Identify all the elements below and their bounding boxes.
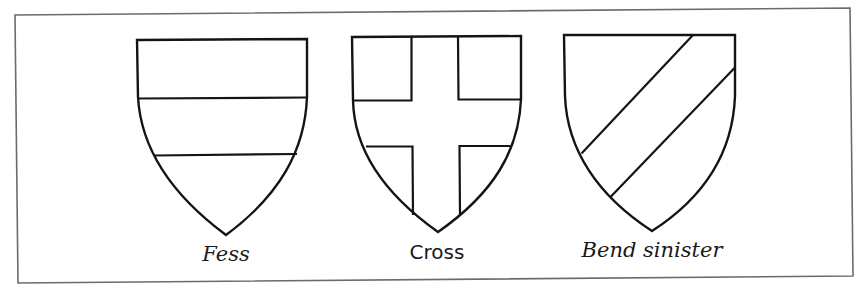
label-bend-sinister: Bend sinister: [582, 238, 723, 262]
shield-cross: [352, 36, 521, 232]
shield-bend-sinister: [564, 35, 735, 231]
shield-fess-outline: [137, 39, 307, 235]
fess-lower-line: [154, 154, 297, 156]
fess-upper-line: [138, 98, 307, 99]
label-fess: Fess: [202, 242, 249, 266]
label-cross: Cross: [410, 240, 465, 264]
shield-cross-outline: [352, 36, 521, 232]
shield-fess: [137, 39, 307, 235]
shield-bend-sinister-outline: [564, 35, 735, 231]
